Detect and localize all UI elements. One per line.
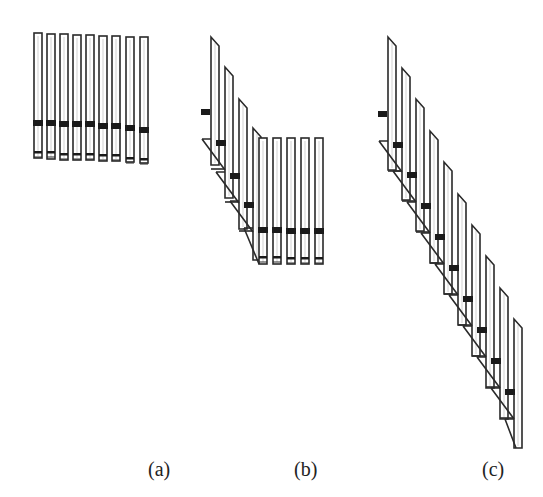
thin-band (73, 153, 81, 156)
thick-band (435, 234, 445, 240)
thin-band (112, 154, 120, 157)
panel-b-mixed-tubes (201, 37, 324, 264)
tube (286, 138, 296, 264)
thick-band (216, 140, 226, 146)
thin-band (99, 154, 107, 157)
slanted-tube (458, 194, 466, 325)
thin-band (287, 257, 295, 260)
thick-band (314, 228, 324, 234)
thin-band (47, 151, 55, 154)
thick-band (505, 389, 515, 395)
thick-band (85, 121, 95, 127)
slanted-tube (430, 131, 438, 263)
tube (59, 34, 69, 160)
tube-diagram-figure (0, 0, 543, 497)
tube (46, 34, 56, 159)
thick-band (59, 121, 69, 127)
tube (300, 138, 310, 264)
thick-band (491, 358, 501, 364)
thin-band (301, 257, 309, 260)
panel-c-staircase-tubes (378, 37, 522, 448)
thick-band (244, 202, 254, 208)
panel-label-c: (c) (482, 458, 504, 481)
thick-band (421, 203, 431, 209)
slanted-tube (239, 99, 247, 229)
thick-band (463, 296, 473, 302)
panel-label-a: (a) (148, 458, 170, 481)
thick-band (272, 227, 282, 233)
thin-band (140, 158, 148, 161)
thin-band (34, 151, 42, 154)
thick-band (111, 123, 121, 129)
thick-band (286, 228, 296, 234)
thick-band (230, 173, 240, 179)
tube (98, 36, 108, 161)
thin-band (273, 256, 281, 259)
thick-band (98, 123, 108, 129)
tube (125, 37, 135, 163)
thick-band (72, 121, 82, 127)
thick-band (258, 227, 268, 233)
tube (272, 138, 282, 264)
tube (85, 35, 95, 160)
thin-band (315, 257, 323, 260)
slanted-tube (402, 68, 410, 200)
tube (33, 33, 43, 158)
thick-band (300, 228, 310, 234)
thin-band (259, 256, 267, 259)
slanted-tube (416, 99, 424, 231)
thin-band (86, 153, 94, 156)
slanted-tube (444, 162, 452, 294)
slanted-tube (472, 225, 480, 356)
lead-band (201, 109, 210, 115)
lead-band (378, 111, 387, 117)
thin-band (60, 153, 68, 156)
slanted-tube (486, 256, 494, 388)
thin-band (126, 157, 134, 160)
thick-band (125, 125, 135, 131)
thick-band (33, 120, 43, 126)
panel-a-upright-tubes (33, 33, 149, 164)
thick-band (393, 142, 403, 148)
panel-label-b: (b) (294, 458, 317, 481)
slanted-tube (388, 37, 396, 170)
thick-band (46, 120, 56, 126)
thick-band (449, 265, 459, 271)
thick-band (407, 172, 417, 178)
tube (111, 36, 121, 161)
slanted-tube (500, 288, 508, 419)
tube (139, 37, 149, 164)
thick-band (477, 327, 487, 333)
tube (314, 138, 324, 264)
tube (258, 138, 268, 264)
tube (72, 35, 82, 160)
thick-band (139, 127, 149, 133)
slanted-tube (514, 319, 522, 448)
